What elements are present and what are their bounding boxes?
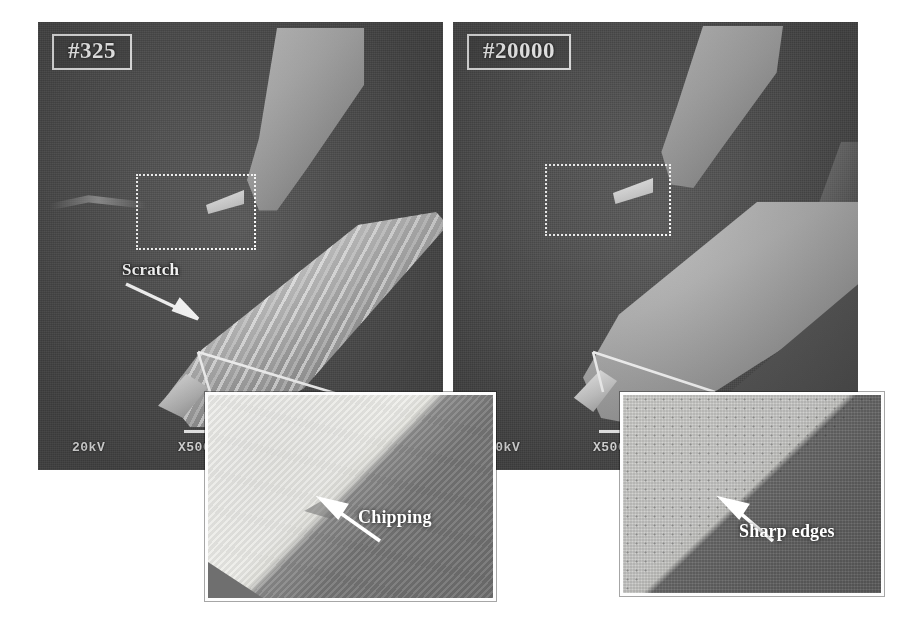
figure-canvas: Scratch #325 20kV X500 50 #20000 20kV — [0, 0, 913, 618]
inset-left-texture — [208, 395, 493, 598]
sharp-edges-label: Sharp edges — [739, 521, 835, 542]
chipping-label: Chipping — [358, 507, 432, 528]
inset-sharp-edges: Sharp edges — [620, 392, 884, 596]
inset-chipping: Chipping — [205, 392, 496, 601]
